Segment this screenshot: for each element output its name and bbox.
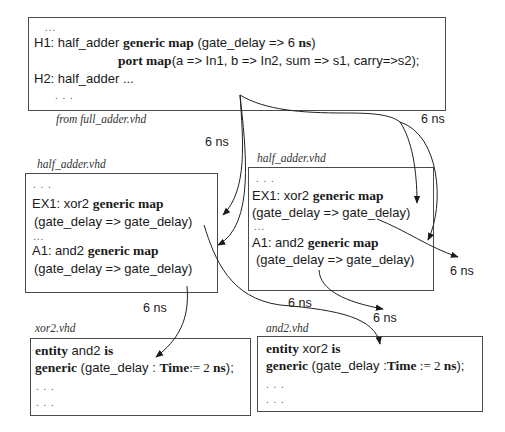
code-text: (gate_delay => 6 <box>194 35 299 50</box>
port-map-line: port map(a => In1, b => In2, sum => s1, … <box>118 53 419 68</box>
xor2-entity-box: entity and2 is generic (gate_delay : Tim… <box>30 338 251 416</box>
keyword: generic map <box>313 188 384 203</box>
keyword: generic <box>266 358 308 373</box>
h1-instance-line: H1: half_adder generic map (gate_delay =… <box>34 35 316 50</box>
keyword: generic map <box>123 35 194 50</box>
half-adder-left-caption: half_adder.vhd <box>37 158 106 170</box>
keyword: Time <box>387 358 417 373</box>
code-text: EX1: xor2 <box>252 188 313 203</box>
and2-entity-box: entity xor2 is generic (gate_delay :Time… <box>257 336 483 412</box>
full-adder-code-box: ... H1: half_adder generic map (gate_del… <box>28 17 446 111</box>
delay-label-top-right: 6 ns <box>421 112 445 126</box>
entity-line: entity xor2 is <box>266 341 341 356</box>
half-adder-right-caption: half_adder.vhd <box>257 152 326 164</box>
delay-label-right-bottom: 6 ns <box>373 311 397 325</box>
delay-label-top-left: 6 ns <box>205 135 229 149</box>
keyword: generic <box>35 360 77 375</box>
code-text: A1: and2 <box>32 243 88 258</box>
ex1-xor2-line: EX1: xor2 generic map <box>252 188 384 203</box>
code-text: (a => In1, b => In2, sum => s1, carry=>s… <box>172 53 420 68</box>
ellipsis: ... <box>254 221 265 232</box>
keyword: ns <box>444 358 457 373</box>
code-text: H1: half_adder <box>34 35 123 50</box>
ellipsis: . . . <box>36 397 55 408</box>
entity-line: entity and2 is <box>35 343 113 358</box>
a1-and2-line: A1: and2 generic map <box>32 243 159 258</box>
delay-label-left-bottom: 6 ns <box>143 301 167 315</box>
code-text: EX1: xor2 <box>32 196 93 211</box>
delay-label-center-bottom: 6 ns <box>288 296 312 310</box>
code-text: (gate_delay : <box>77 360 159 375</box>
generic-line: generic (gate_delay :Time := 2 ns); <box>266 358 464 373</box>
full-adder-caption: from full_adder.vhd <box>56 113 146 125</box>
code-text: A1: and2 <box>252 235 308 250</box>
keyword: is <box>104 343 113 358</box>
ellipsis: ... <box>33 231 44 242</box>
half-adder-right-box: . . . EX1: xor2 generic map (gate_delay … <box>248 167 434 291</box>
keyword: entity <box>35 343 68 358</box>
keyword: ns <box>213 360 226 375</box>
ellipsis: . . . <box>266 394 285 405</box>
ellipsis: ... <box>45 22 56 33</box>
ellipsis: . . . <box>55 90 74 101</box>
a1-generic-map-line: (gate_delay => gate_delay) <box>256 252 414 267</box>
a1-generic-map-line: (gate_delay => gate_delay) <box>34 261 192 276</box>
delay-label-right-mid: 6 ns <box>450 264 474 278</box>
and2-caption: and2.vhd <box>266 322 308 334</box>
keyword: generic map <box>308 235 379 250</box>
ellipsis: . . . <box>256 173 275 184</box>
keyword: is <box>332 341 341 356</box>
keyword: port map <box>118 53 172 68</box>
keyword: Time <box>159 360 189 375</box>
keyword: generic map <box>93 196 164 211</box>
ex1-generic-map-line: (gate_delay => gate_delay) <box>34 214 192 229</box>
code-text: ); <box>226 360 234 375</box>
keyword: ns <box>299 35 312 50</box>
code-text: xor2 <box>299 341 332 356</box>
arrow-to-left-a1 <box>218 95 246 245</box>
arrow-to-left-ex1 <box>223 95 243 215</box>
generic-line: generic (gate_delay : Time:= 2 ns); <box>35 360 234 375</box>
keyword: generic map <box>88 243 159 258</box>
h2-instance-line: H2: half_adder ... <box>34 71 134 86</box>
a1-and2-line: A1: and2 generic map <box>252 235 379 250</box>
ellipsis: . . . <box>36 381 55 392</box>
code-text: and2 <box>68 343 104 358</box>
ellipsis: . . . <box>33 179 52 190</box>
half-adder-left-box: . . . EX1: xor2 generic map (gate_delay … <box>25 173 218 293</box>
xor2-caption: xor2.vhd <box>35 322 76 334</box>
code-text: ) <box>311 35 315 50</box>
code-text: := 2 <box>417 358 444 373</box>
code-text: (gate_delay : <box>308 358 387 373</box>
code-text: ); <box>456 358 464 373</box>
ellipsis: . . . <box>266 379 285 390</box>
ex1-xor2-line: EX1: xor2 generic map <box>32 196 164 211</box>
ex1-generic-map-line: (gate_delay => gate_delay) <box>252 205 410 220</box>
code-text: := 2 <box>189 360 213 375</box>
keyword: entity <box>266 341 299 356</box>
